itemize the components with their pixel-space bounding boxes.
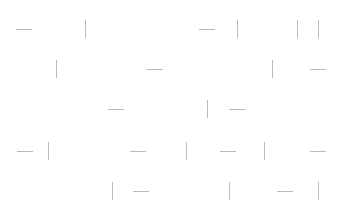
horizontal-line-segment [277,191,293,192]
vertical-line-segment [56,60,57,78]
horizontal-line-segment [229,109,245,110]
horizontal-line-segment [133,191,149,192]
vertical-line-segment [237,20,238,38]
vertical-line-segment [229,182,230,200]
horizontal-line-segment [108,109,124,110]
vertical-line-segment [112,182,113,200]
horizontal-line-segment [220,151,236,152]
vertical-line-segment [318,20,319,38]
horizontal-line-segment [147,69,163,70]
horizontal-line-segment [199,29,215,30]
horizontal-line-segment [310,151,326,152]
horizontal-line-segment [17,151,33,152]
line-segment-canvas [0,0,341,218]
vertical-line-segment [48,142,49,160]
vertical-line-segment [264,142,265,160]
horizontal-line-segment [310,69,326,70]
vertical-line-segment [272,60,273,78]
vertical-line-segment [297,20,298,38]
vertical-line-segment [318,182,319,200]
vertical-line-segment [207,100,208,118]
vertical-line-segment [85,20,86,38]
vertical-line-segment [186,142,187,160]
horizontal-line-segment [16,29,32,30]
horizontal-line-segment [130,151,146,152]
